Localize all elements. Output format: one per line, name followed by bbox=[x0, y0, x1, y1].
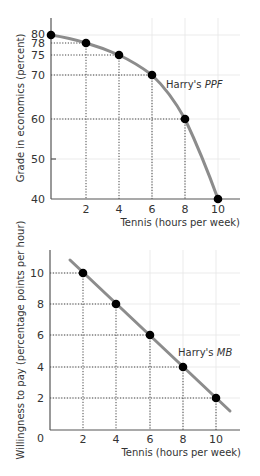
ppf-xtick: 4 bbox=[116, 203, 123, 216]
mb-ytick: 4 bbox=[37, 361, 44, 374]
ppf-point-6 bbox=[148, 71, 157, 80]
mb-y-label: Willingness to pay (percentage points pe… bbox=[15, 220, 26, 459]
ppf-chart: 80 78 75 70 60 50 40 2 4 6 8 10 Tennis (… bbox=[15, 18, 240, 228]
ppf-ytick: 75 bbox=[31, 49, 45, 62]
mb-point-2 bbox=[79, 269, 88, 278]
ppf-guides bbox=[51, 43, 185, 199]
ppf-x-label: Tennis (hours per week) bbox=[119, 217, 240, 228]
ppf-point-4 bbox=[115, 51, 124, 60]
ppf-curve bbox=[51, 35, 218, 199]
ppf-point-10 bbox=[214, 195, 223, 204]
ppf-ytick: 60 bbox=[31, 113, 45, 126]
mb-origin: 0 bbox=[37, 432, 44, 445]
mb-curve-label: Harry's MB bbox=[178, 347, 232, 358]
ppf-ytick: 50 bbox=[31, 153, 45, 166]
ppf-xtick: 8 bbox=[182, 203, 189, 216]
mb-grid bbox=[50, 250, 240, 430]
figure: 80 78 75 70 60 50 40 2 4 6 8 10 Tennis (… bbox=[0, 0, 260, 476]
mb-xtick: 6 bbox=[147, 433, 154, 446]
mb-point-4 bbox=[112, 300, 121, 309]
ppf-xtick: 2 bbox=[83, 203, 90, 216]
ppf-point-2 bbox=[82, 39, 91, 48]
ppf-ytick: 70 bbox=[31, 69, 45, 82]
ppf-y-ticks: 80 78 75 70 60 50 40 bbox=[31, 28, 45, 206]
mb-xtick: 2 bbox=[80, 433, 87, 446]
mb-ytick: 2 bbox=[37, 392, 44, 405]
mb-xtick: 4 bbox=[113, 433, 120, 446]
ppf-grid bbox=[51, 18, 240, 199]
mb-point-6 bbox=[146, 331, 155, 340]
ppf-point-0 bbox=[47, 31, 56, 40]
mb-ytick: 6 bbox=[37, 329, 44, 342]
mb-point-10 bbox=[212, 394, 221, 403]
ppf-point-8 bbox=[181, 115, 190, 124]
ppf-xtick: 10 bbox=[211, 203, 225, 216]
mb-xtick: 10 bbox=[209, 433, 223, 446]
ppf-ytick: 40 bbox=[31, 193, 45, 206]
ppf-x-ticks: 2 4 6 8 10 bbox=[83, 203, 226, 216]
mb-y-ticks: 10 8 6 4 2 0 bbox=[30, 267, 44, 445]
mb-point-8 bbox=[179, 363, 188, 372]
ppf-points bbox=[47, 31, 223, 204]
ppf-y-label: Grade in economics (percent) bbox=[15, 34, 26, 183]
mb-x-label: Tennis (hours per week) bbox=[120, 447, 241, 458]
ppf-xtick: 6 bbox=[149, 203, 156, 216]
ppf-curve-label: Harry's PPF bbox=[166, 79, 223, 90]
mb-ytick: 10 bbox=[30, 267, 44, 280]
mb-chart: 10 8 6 4 2 0 2 4 6 8 10 Tennis (hours pe… bbox=[15, 220, 241, 459]
mb-ytick: 8 bbox=[37, 298, 44, 311]
mb-xtick: 8 bbox=[180, 433, 187, 446]
mb-x-ticks: 2 4 6 8 10 bbox=[80, 433, 224, 446]
